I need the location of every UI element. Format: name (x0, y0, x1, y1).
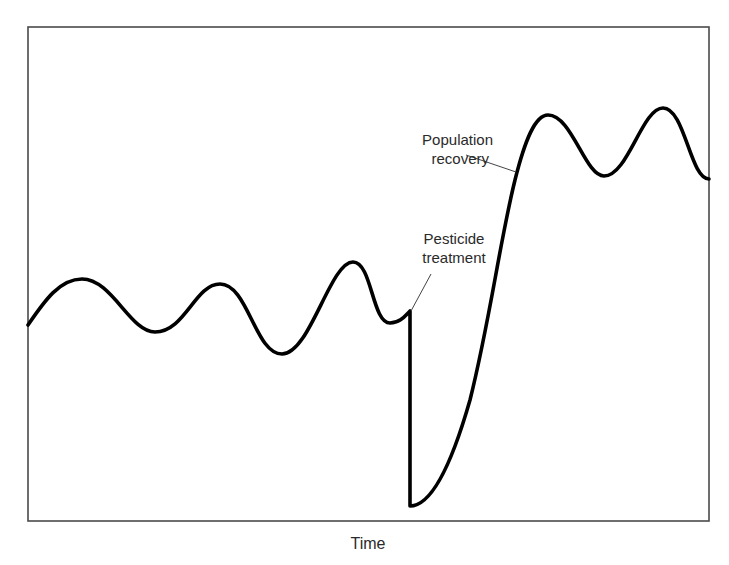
pesticide-treatment-label: Pesticide treatment (404, 229, 504, 267)
recovery-label-line2: recovery (383, 149, 493, 168)
recovery-label-line1: Population (383, 130, 493, 149)
pesticide-label-line1: Pesticide (404, 229, 504, 248)
population-curve (28, 108, 709, 506)
population-diagram (0, 0, 729, 565)
pesticide-label-line2: treatment (404, 248, 504, 267)
pesticide-leader-line (411, 274, 431, 311)
x-axis-label: Time (318, 534, 418, 553)
plot-frame (28, 27, 709, 521)
population-recovery-label: Population recovery (383, 130, 493, 168)
